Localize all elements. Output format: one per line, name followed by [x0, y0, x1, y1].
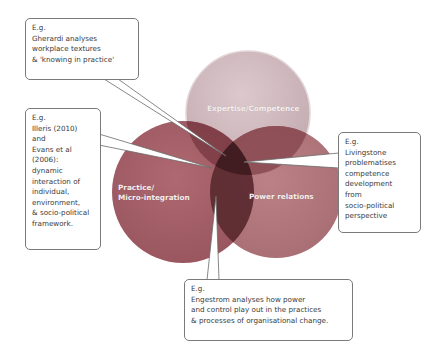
- practice-label: Practice/ Micro-integration: [118, 183, 190, 203]
- left-callout: E.g. Illeris (2010) and Evans et al (200…: [25, 108, 101, 250]
- expertise-competence-label: Expertise/Competence: [207, 104, 299, 114]
- top-callout: E.g. Gherardi analyses workplace texture…: [25, 18, 139, 80]
- right-callout: E.g. Livingstone problematises competenc…: [338, 132, 421, 233]
- bottom-callout: E.g. Engestrom analyses how power and co…: [184, 279, 353, 341]
- power-relations-label: Power relations: [249, 192, 314, 202]
